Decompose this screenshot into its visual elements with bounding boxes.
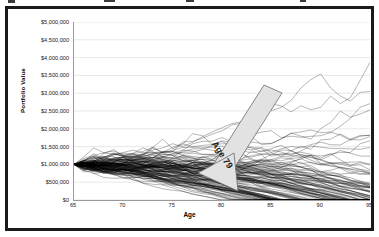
sliver-mark: [300, 0, 306, 2]
x-axis-tick-label: 75: [157, 202, 187, 208]
x-axis-tick-labels: 65707580859095: [8, 9, 371, 228]
chart-inner: Portfolio Value $0$500,000$1,000,000$1,5…: [8, 9, 371, 228]
sliver-mark: [186, 0, 194, 2]
x-axis-tick-label: 85: [255, 202, 285, 208]
x-axis-tick-label: 80: [206, 202, 236, 208]
x-axis-tick-label: 90: [305, 202, 335, 208]
x-axis-tick-label: 70: [107, 202, 137, 208]
chart-frame: Portfolio Value $0$500,000$1,000,000$1,5…: [5, 6, 374, 231]
x-axis-tick-label: 65: [58, 202, 88, 208]
x-axis-title: Age: [8, 211, 371, 218]
chart-screenshot: Portfolio Value $0$500,000$1,000,000$1,5…: [0, 0, 379, 237]
x-axis-tick-label: 95: [354, 202, 379, 208]
sliver-mark: [104, 0, 115, 2]
sliver-mark: [8, 0, 15, 3]
